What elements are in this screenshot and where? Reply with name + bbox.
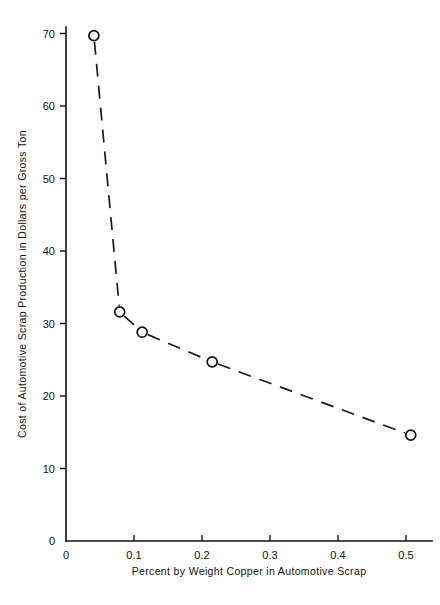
x-tick-label: 0.5	[398, 549, 413, 561]
x-tick-label: 0.1	[126, 549, 141, 561]
y-tick-label: 0	[49, 535, 55, 547]
y-axis-title: Cost of Automotive Scrap Production in D…	[16, 130, 28, 438]
y-tick-label: 40	[43, 245, 55, 257]
y-tick-label: 50	[43, 173, 55, 185]
data-point-marker	[406, 430, 416, 440]
x-axis-title: Percent by Weight Copper in Automotive S…	[132, 565, 367, 577]
y-axis-ticks: 010203040506070	[43, 28, 66, 548]
y-tick-label: 70	[43, 28, 55, 40]
data-point-marker	[89, 31, 99, 41]
y-tick-label: 60	[43, 100, 55, 112]
chart-figure: 010203040506070 00.10.20.30.40.5 Percent…	[0, 0, 440, 605]
chart-plot-area: 010203040506070 00.10.20.30.40.5 Percent…	[0, 0, 440, 605]
x-tick-label: 0.2	[194, 549, 209, 561]
y-tick-label: 20	[43, 390, 55, 402]
y-tick-label: 30	[43, 318, 55, 330]
data-point-marker	[115, 307, 125, 317]
x-tick-label: 0.3	[262, 549, 277, 561]
data-point-marker	[207, 357, 217, 367]
data-series-line	[94, 42, 404, 433]
data-point-markers	[89, 31, 416, 440]
x-tick-label: 0	[63, 549, 69, 561]
y-tick-label: 10	[43, 463, 55, 475]
x-tick-label: 0.4	[330, 549, 345, 561]
data-point-marker	[137, 327, 147, 337]
x-axis-ticks: 00.10.20.30.40.5	[63, 535, 414, 561]
